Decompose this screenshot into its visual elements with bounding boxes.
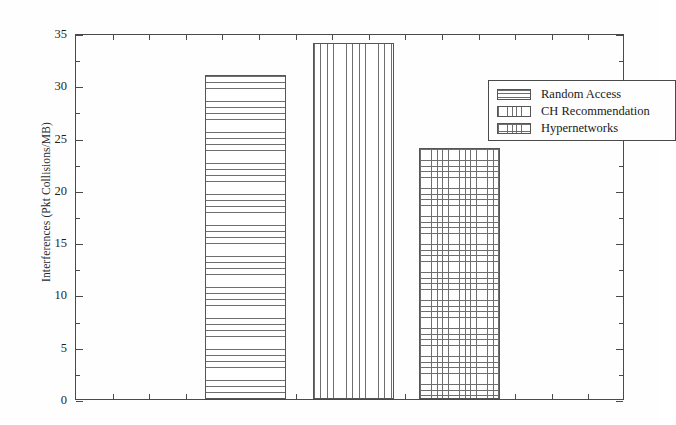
y-tick-minor — [76, 218, 80, 219]
y-tick-major — [616, 349, 623, 350]
y-tick-minor — [619, 270, 623, 271]
x-tick — [149, 394, 150, 399]
x-tick — [515, 35, 516, 40]
legend-item: Random Access — [497, 86, 675, 102]
y-tick-major — [76, 349, 83, 350]
y-tick-major — [76, 87, 83, 88]
y-tick-major — [76, 401, 83, 402]
y-axis-tick-label: 5 — [27, 340, 67, 355]
y-tick-major — [616, 192, 623, 193]
y-tick-major — [616, 244, 623, 245]
x-tick — [405, 394, 406, 399]
x-tick — [588, 35, 589, 40]
x-tick — [222, 35, 223, 40]
y-axis-tick-label: 25 — [27, 131, 67, 146]
y-tick-major — [616, 35, 623, 36]
x-tick — [296, 394, 297, 399]
legend-swatch-vertical-lines-icon — [497, 106, 531, 117]
y-tick-major — [616, 401, 623, 402]
plot-area: Random Access CH Recommendation Hypernet… — [75, 34, 624, 400]
x-tick — [149, 35, 150, 40]
legend-label: CH Recommendation — [541, 105, 650, 118]
legend-label: Hypernetworks — [541, 122, 618, 135]
y-tick-minor — [76, 166, 80, 167]
legend-label: Random Access — [541, 88, 621, 101]
y-tick-minor — [76, 323, 80, 324]
y-tick-major — [76, 244, 83, 245]
x-tick — [552, 35, 553, 40]
y-tick-minor — [76, 113, 80, 114]
y-tick-minor — [619, 323, 623, 324]
x-tick — [588, 394, 589, 399]
chart-legend: Random Access CH Recommendation Hypernet… — [488, 80, 676, 141]
legend-item: Hypernetworks — [497, 120, 675, 136]
legend-swatch-crosshatch-grid-icon — [497, 123, 531, 134]
y-tick-minor — [76, 61, 80, 62]
y-tick-major — [616, 296, 623, 297]
y-tick-minor — [76, 270, 80, 271]
bar — [313, 43, 394, 399]
bar — [419, 148, 500, 399]
x-tick — [332, 35, 333, 40]
x-tick — [405, 35, 406, 40]
y-tick-major — [76, 296, 83, 297]
y-tick-major — [76, 192, 83, 193]
y-tick-major — [76, 140, 83, 141]
x-tick — [515, 394, 516, 399]
y-tick-minor — [619, 61, 623, 62]
x-tick — [259, 35, 260, 40]
x-tick — [442, 35, 443, 40]
x-tick — [113, 35, 114, 40]
y-tick-minor — [619, 218, 623, 219]
y-tick-minor — [76, 375, 80, 376]
bar — [205, 75, 286, 399]
y-tick-minor — [619, 166, 623, 167]
y-axis-tick-label: 35 — [27, 27, 67, 42]
x-tick — [552, 394, 553, 399]
legend-item: CH Recommendation — [497, 103, 675, 119]
y-axis-tick-label: 10 — [27, 288, 67, 303]
y-axis-tick-label: 20 — [27, 183, 67, 198]
x-tick — [296, 35, 297, 40]
x-tick — [479, 35, 480, 40]
y-tick-major — [76, 35, 83, 36]
x-tick — [186, 394, 187, 399]
y-tick-minor — [619, 375, 623, 376]
y-axis-tick-label: 30 — [27, 79, 67, 94]
y-axis-tick-label: 0 — [27, 393, 67, 408]
x-tick — [369, 35, 370, 40]
x-tick — [113, 394, 114, 399]
x-tick — [186, 35, 187, 40]
y-axis-tick-label: 15 — [27, 236, 67, 251]
legend-swatch-horizontal-lines-icon — [497, 89, 531, 100]
